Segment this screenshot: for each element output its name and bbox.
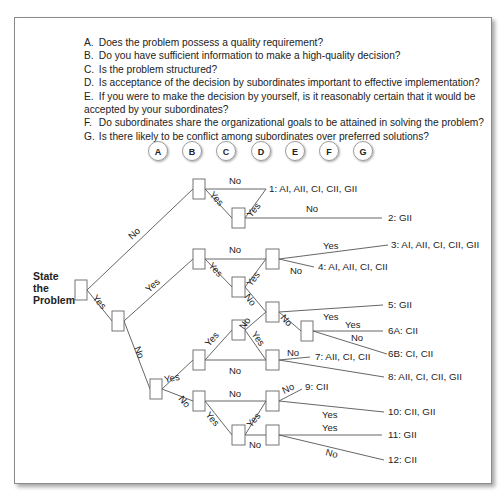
column-b: B xyxy=(183,142,202,161)
svg-text:No: No xyxy=(287,347,299,358)
svg-text:E: E xyxy=(292,147,298,157)
node-d-a xyxy=(232,277,245,297)
node-e-e xyxy=(266,425,279,445)
svg-text:F: F xyxy=(326,147,332,157)
outcome-10: 10: CII, GII xyxy=(388,406,435,417)
outcome-9: 9: CII xyxy=(305,381,328,392)
outcome-12: 12: CII xyxy=(388,454,417,465)
column-f: F xyxy=(320,142,339,161)
decision-nodes xyxy=(75,179,313,445)
outcome-6a: 6A: CII xyxy=(388,325,418,336)
node-b-top xyxy=(193,179,205,199)
svg-text:G: G xyxy=(359,147,366,157)
outcome-1: 1: AI, AII, CI, CII, GII xyxy=(269,183,357,194)
svg-text:Yes: Yes xyxy=(203,409,222,428)
outcomes: 1: AI, AII, CI, CII, GII 2: GII 3: AI, A… xyxy=(269,183,479,465)
outcome-5: 5: GII xyxy=(388,299,412,310)
node-d-c xyxy=(193,391,205,411)
node-e-d xyxy=(266,391,279,411)
outcome-7: 7: AII, CI, CII xyxy=(315,351,371,362)
svg-text:No: No xyxy=(249,439,261,450)
svg-text:Yes: Yes xyxy=(208,189,227,208)
svg-text:State: State xyxy=(33,270,59,282)
svg-text:Yes: Yes xyxy=(322,422,338,433)
node-f-a xyxy=(301,321,313,341)
svg-text:No: No xyxy=(126,225,142,241)
svg-text:No: No xyxy=(324,446,339,460)
column-a: A xyxy=(149,142,168,161)
svg-text:Yes: Yes xyxy=(345,319,361,330)
node-root-a xyxy=(75,280,87,300)
node-e-c xyxy=(266,350,279,370)
outcome-11: 11: GII xyxy=(388,429,417,440)
svg-text:D: D xyxy=(258,147,265,157)
outcome-2: 2: GII xyxy=(388,212,412,223)
svg-text:Yes: Yes xyxy=(244,200,263,219)
start-label: State the Problem xyxy=(33,270,75,306)
svg-text:C: C xyxy=(223,147,230,157)
svg-text:No: No xyxy=(229,388,241,399)
svg-text:No: No xyxy=(306,203,318,214)
svg-text:Yes: Yes xyxy=(90,292,109,311)
node-c2 xyxy=(193,249,205,269)
node-c3 xyxy=(193,350,205,370)
svg-text:Yes: Yes xyxy=(323,240,339,251)
svg-text:No: No xyxy=(229,175,241,186)
svg-text:Yes: Yes xyxy=(163,371,181,385)
node-c-low xyxy=(150,379,162,399)
column-d: D xyxy=(252,142,271,161)
column-c: C xyxy=(217,142,236,161)
svg-text:the: the xyxy=(33,282,49,294)
decision-tree: A B C D E F G State the Problem xyxy=(0,0,503,497)
outcome-4: 4: AI, AII, CI, CII xyxy=(318,261,388,272)
outcome-3: 3: AI, AII, CI, CII, GII xyxy=(391,239,479,250)
node-e-b xyxy=(266,302,279,322)
svg-text:No: No xyxy=(279,312,295,328)
svg-text:No: No xyxy=(290,265,302,276)
svg-text:Yes: Yes xyxy=(322,409,338,420)
column-g: G xyxy=(354,142,373,161)
node-b2 xyxy=(112,311,124,331)
svg-text:B: B xyxy=(189,147,196,157)
svg-text:Yes: Yes xyxy=(249,329,267,348)
svg-text:Problem: Problem xyxy=(33,294,75,306)
svg-text:A: A xyxy=(155,147,162,157)
svg-text:No: No xyxy=(132,345,147,360)
svg-text:No: No xyxy=(229,244,241,255)
outcome-8: 8: AII, CI, CII, GII xyxy=(388,371,462,382)
node-e-a xyxy=(266,249,279,269)
node-c-top xyxy=(232,208,245,228)
svg-text:No: No xyxy=(229,365,241,376)
svg-text:Yes: Yes xyxy=(323,311,339,322)
outcome-6b: 6B: CI, CII xyxy=(388,348,433,359)
column-e: E xyxy=(286,142,305,161)
column-circles: A B C D E F G xyxy=(149,142,373,161)
svg-text:No: No xyxy=(351,332,363,343)
svg-text:Yes: Yes xyxy=(244,410,263,429)
svg-text:Yes: Yes xyxy=(143,276,162,295)
node-d-d xyxy=(232,425,245,445)
